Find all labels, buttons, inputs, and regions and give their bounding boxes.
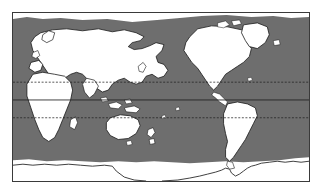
iceland-landmass — [273, 40, 280, 46]
map-frame — [12, 12, 310, 182]
world-map-svg — [13, 13, 309, 181]
tasmania-landmass — [126, 140, 132, 145]
small-islands-atlantic — [247, 77, 252, 81]
distribution-map-figure — [0, 0, 321, 193]
